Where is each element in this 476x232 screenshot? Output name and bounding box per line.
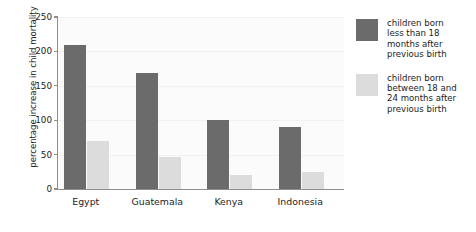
- bar-group: [136, 17, 181, 189]
- bar: [159, 157, 181, 189]
- bar: [207, 120, 229, 189]
- y-axis-tick-label: 250: [35, 12, 52, 22]
- legend-entry: children born less than 18 months after …: [356, 18, 474, 60]
- legend-label: children born less than 18 months after …: [387, 18, 447, 60]
- bar: [87, 141, 109, 189]
- chart-legend: children born less than 18 months after …: [356, 18, 474, 127]
- bar-group: [279, 17, 324, 189]
- y-axis-tick: [54, 85, 58, 86]
- plot-area: [58, 17, 344, 189]
- bar: [302, 172, 324, 189]
- y-axis-tick-label: 200: [35, 46, 52, 56]
- y-axis-tick: [54, 120, 58, 121]
- y-axis-tick: [54, 51, 58, 52]
- legend-label: children born between 18 and 24 months a…: [387, 73, 457, 115]
- bar-group: [207, 17, 252, 189]
- bar: [64, 45, 86, 189]
- x-axis-category-label: Egypt: [72, 196, 99, 207]
- y-axis-tick: [54, 188, 58, 189]
- y-axis-tick-label: 150: [35, 81, 52, 91]
- y-axis-tick: [54, 154, 58, 155]
- y-axis-tick-label: 50: [41, 150, 52, 160]
- bar: [279, 127, 301, 189]
- legend-swatch: [356, 19, 378, 41]
- bar: [230, 175, 252, 189]
- x-axis-category-label: Indonesia: [278, 196, 323, 207]
- legend-entry: children born between 18 and 24 months a…: [356, 73, 474, 115]
- bar-group: [64, 17, 109, 189]
- plot-frame: 050100150200250: [57, 17, 344, 190]
- x-axis-category-label: Kenya: [214, 196, 243, 207]
- legend-swatch: [356, 74, 378, 96]
- y-axis-tick: [54, 16, 58, 17]
- bar-chart-figure: percentage increase in child mortality 0…: [0, 0, 476, 232]
- y-axis-tick-label: 0: [46, 184, 52, 194]
- bar: [136, 73, 158, 189]
- x-axis-category-label: Guatemala: [131, 196, 183, 207]
- y-axis-tick-label: 100: [35, 115, 52, 125]
